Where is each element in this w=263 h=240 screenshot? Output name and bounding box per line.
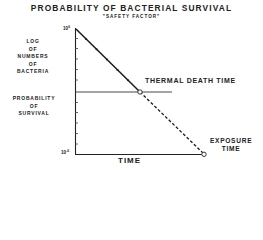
x-axis-label: TIME [118,156,141,165]
exposure-time-label: EXPOSURE TIME [210,137,252,153]
thermal-death-time-label: THERMAL DEATH TIME [145,77,236,85]
thermal-death-point-icon [138,90,142,94]
exposure-label-line: EXPOSURE [210,137,252,145]
exposure-time-point-icon [202,152,206,156]
exposure-label-line: TIME [210,145,252,153]
survivor-curve-dashed [140,92,204,154]
